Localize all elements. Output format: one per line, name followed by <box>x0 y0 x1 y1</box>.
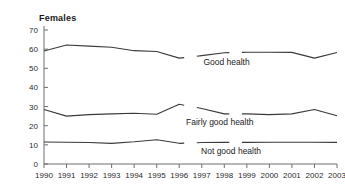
y-tick-label: 70 <box>29 26 38 35</box>
y-axis-group: 010203040506070 <box>29 26 48 169</box>
x-tick-label: 1997 <box>193 171 211 180</box>
series-line <box>242 109 337 115</box>
y-tick-label: 20 <box>29 122 38 131</box>
series-line <box>197 108 229 114</box>
x-tick-label: 1995 <box>148 171 166 180</box>
chart-container: Females 010203040506070 1990199119921993… <box>0 0 345 193</box>
series-line <box>44 140 184 144</box>
x-tick-label: 1999 <box>238 171 256 180</box>
y-tick-label: 0 <box>34 160 39 169</box>
annotation-group: Good healthFairly good healthNot good he… <box>186 57 261 156</box>
x-tick-label: 1994 <box>125 171 143 180</box>
series-annotation: Not good health <box>201 146 261 156</box>
series-group <box>44 45 337 143</box>
x-tick-label: 1996 <box>170 171 188 180</box>
x-tick-label: 1990 <box>35 171 53 180</box>
x-tick-label: 2000 <box>260 171 278 180</box>
series-line <box>44 104 184 116</box>
x-tick-label: 2002 <box>306 171 324 180</box>
line-chart-plot: 010203040506070 199019911992199319941995… <box>0 0 345 193</box>
series-line <box>197 53 229 57</box>
y-tick-label: 10 <box>29 141 38 150</box>
y-tick-label: 30 <box>29 103 38 112</box>
y-tick-label: 50 <box>29 64 38 73</box>
y-tick-label: 60 <box>29 45 38 54</box>
x-tick-label: 1993 <box>103 171 121 180</box>
x-tick-label: 1998 <box>215 171 233 180</box>
x-tick-label: 1991 <box>58 171 76 180</box>
series-line <box>44 45 184 58</box>
series-annotation: Fairly good health <box>186 117 254 127</box>
series-line <box>242 52 337 58</box>
series-annotation: Good health <box>203 57 250 67</box>
x-tick-label: 2001 <box>283 171 301 180</box>
x-tick-label: 1992 <box>80 171 98 180</box>
y-tick-label: 40 <box>29 83 38 92</box>
x-axis-group: 1990199119921993199419951996199719981999… <box>35 164 345 180</box>
x-tick-label: 2003 <box>328 171 345 180</box>
